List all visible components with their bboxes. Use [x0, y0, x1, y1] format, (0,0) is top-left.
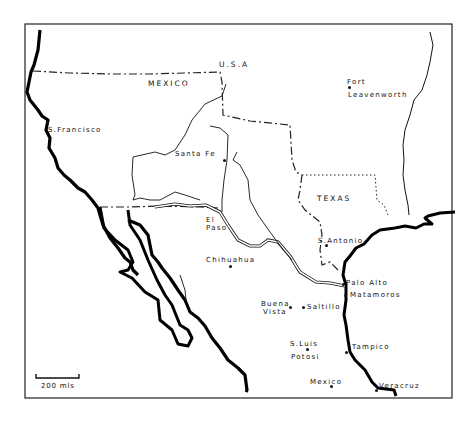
label-el-paso-1: El: [206, 216, 215, 224]
marker-san-antonio: [325, 244, 328, 247]
marker-san-francisco: [46, 121, 49, 124]
label-texas: TEXAS: [317, 195, 351, 203]
marker-veracruz: [375, 389, 378, 392]
label-buena-vista-2: Vista: [263, 308, 287, 316]
marker-san-luis-potosi: [306, 348, 309, 351]
label-mexico-city: Mexico: [310, 378, 342, 386]
river-west: [132, 84, 226, 200]
marker-matamoros: [344, 294, 347, 297]
marker-santa-fe: [223, 159, 226, 162]
label-san-luis-potosi-1: S.Luis: [290, 340, 318, 348]
label-fort-leavenworth-2: Leavenworth: [348, 91, 408, 99]
marker-palo-alto: [342, 283, 345, 286]
label-san-luis-potosi-2: Potosi: [291, 353, 320, 361]
scale-bar-label: 200 mls: [41, 382, 75, 390]
label-palo-alto: Palo Alto: [346, 279, 388, 287]
label-tampico: Tampico: [352, 343, 390, 351]
marker-mexico-city: [330, 385, 333, 388]
label-el-paso-2: Paso: [206, 224, 227, 232]
marker-tampico: [345, 351, 348, 354]
rio-grande-route: [155, 204, 345, 286]
pacific-coastline: [27, 30, 138, 275]
label-matamoros: Matamoros: [350, 291, 401, 299]
mississippi-river: [403, 32, 433, 215]
scale-bar: [36, 374, 79, 378]
marker-saltillo: [302, 306, 305, 309]
label-usa: U.S.A: [219, 61, 249, 69]
label-veracruz: Veracruz: [379, 382, 420, 390]
label-santa-fe: Santa Fe: [175, 150, 216, 158]
marker-fort-leavenworth: [348, 86, 351, 89]
label-chihuahua: Chihuahua: [206, 256, 255, 264]
label-fort-leavenworth-1: Fort: [347, 78, 366, 86]
mexico-west-coast: [128, 220, 247, 392]
label-buena-vista-1: Buena: [261, 300, 290, 308]
texas-border: [298, 175, 338, 270]
marker-buena-vista: [289, 306, 292, 309]
map-frame: [25, 24, 452, 398]
label-san-francisco: S.Francisco: [48, 126, 102, 134]
label-saltillo: Saltillo: [307, 303, 341, 311]
river-pecos: [210, 126, 228, 212]
marker-chihuahua: [229, 265, 232, 268]
label-mexico: MEXICO: [148, 80, 190, 88]
baja-california: [100, 207, 192, 346]
